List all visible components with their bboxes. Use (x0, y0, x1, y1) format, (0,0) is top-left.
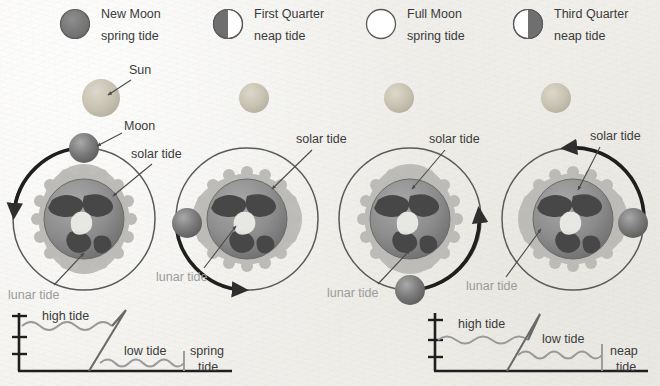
lunar-tide-label: lunar tide (156, 270, 207, 284)
sun-row: Sun (82, 63, 571, 117)
low-tide-wave (518, 344, 602, 371)
legend-phase-label: New Moon (101, 7, 161, 21)
legend-tide-label: spring tide (101, 29, 159, 43)
full-moon-icon (367, 10, 396, 39)
panel-full-moon: solar tide lunar tide (327, 132, 481, 305)
solar-tide-label: solar tide (429, 132, 480, 146)
sun-label: Sun (129, 63, 151, 77)
moon-sphere (395, 275, 425, 305)
first-quarter-icon (214, 10, 243, 39)
legend-phase-label: First Quarter (254, 7, 324, 21)
moon-sphere (69, 133, 99, 163)
tide-name-line1: spring (190, 344, 224, 358)
sun-sphere-4 (541, 83, 571, 113)
moon-leader-line (97, 133, 122, 146)
legend-tide-label: neap tide (554, 29, 605, 43)
solar-tide-label: solar tide (590, 129, 641, 143)
tide-name-line2: tide (198, 360, 218, 374)
earth-globe (44, 179, 124, 259)
legend-item-full-moon[interactable]: Full Moon spring tide (367, 7, 465, 43)
high-tide-wave (22, 322, 112, 330)
low-tide-label: low tide (542, 332, 584, 346)
solar-tide-label: solar tide (131, 147, 182, 161)
panel-first-quarter: solar tide lunar tide (156, 132, 347, 290)
tide-name-line2: tide (616, 360, 636, 374)
sun-sphere-2 (239, 83, 269, 113)
high-tide-label: high tide (458, 317, 505, 331)
spring-rise-line (89, 310, 126, 371)
high-tide-wave (438, 337, 528, 344)
legend-item-new-moon[interactable]: New Moon spring tide (61, 7, 161, 43)
spring-tide-chart: high tide low tide spring tide (12, 309, 232, 374)
panel-third-quarter: solar tide lunar tide (466, 129, 648, 293)
moon-label: Moon (124, 119, 155, 133)
high-tide-label: high tide (42, 309, 89, 323)
legend-phase-label: Full Moon (407, 7, 462, 21)
sun-sphere-1 (82, 79, 120, 117)
new-moon-icon (61, 10, 90, 39)
sun-sphere-3 (384, 83, 414, 113)
third-quarter-icon (514, 10, 543, 39)
moon-sphere (618, 208, 648, 238)
solar-tide-label: solar tide (296, 132, 347, 146)
legend-phase-label: Third Quarter (554, 7, 628, 21)
tide-name-line1: neap (610, 344, 638, 358)
earth-globe (533, 179, 613, 259)
legend-item-third-quarter[interactable]: Third Quarter neap tide (514, 7, 629, 43)
earth-globe (207, 179, 287, 259)
legend-tide-label: spring tide (407, 29, 465, 43)
legend: New Moon spring tide First Quarter neap … (61, 7, 629, 43)
legend-tide-label: neap tide (254, 29, 305, 43)
earth-globe (370, 179, 450, 259)
low-tide-label: low tide (124, 344, 166, 358)
tides-diagram: New Moon spring tide First Quarter neap … (0, 0, 660, 386)
neap-rise-line (507, 314, 540, 371)
diagram-canvas: New Moon spring tide First Quarter neap … (0, 0, 660, 386)
lunar-tide-label: lunar tide (327, 286, 378, 300)
moon-sphere (172, 208, 202, 238)
legend-item-first-quarter[interactable]: First Quarter neap tide (214, 7, 325, 43)
lunar-tide-label: lunar tide (466, 279, 517, 293)
neap-tide-chart: high tide low tide neap tide (428, 313, 648, 374)
lunar-tide-label: lunar tide (8, 288, 59, 302)
